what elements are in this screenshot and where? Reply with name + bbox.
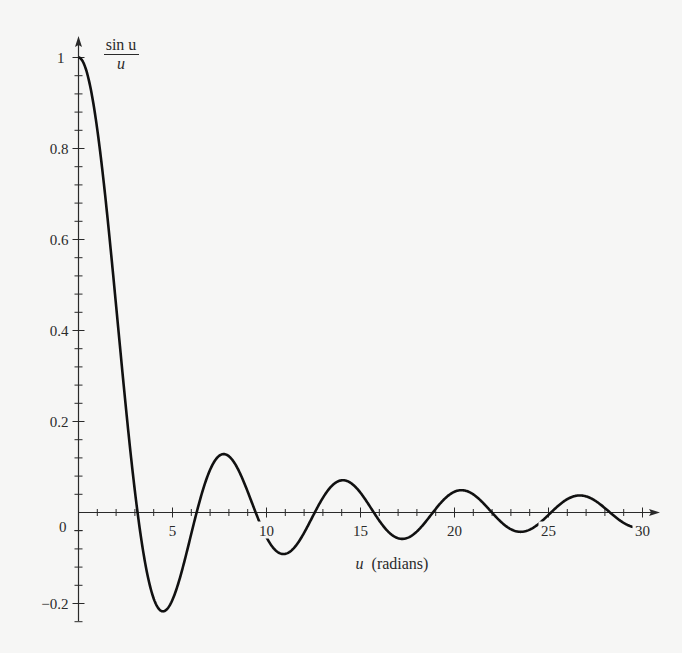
tick-labels: 51015202530−0.200.20.40.60.81 [41, 50, 652, 612]
chart-canvas: 51015202530−0.200.20.40.60.81 sin u u u … [0, 0, 682, 653]
y-tick-label: 0 [59, 519, 67, 535]
x-tick-label: 5 [169, 523, 177, 539]
y-tick-label: 0.6 [50, 232, 69, 248]
x-tick-label: 30 [635, 523, 650, 539]
y-tick-label: 0.4 [50, 323, 69, 339]
y-title-denominator: u [117, 55, 125, 72]
x-tick-label: 10 [259, 523, 274, 539]
x-tick-label: 25 [541, 523, 556, 539]
y-tick-label: 0.8 [50, 141, 69, 157]
y-tick-label: 1 [57, 50, 65, 66]
y-tick-label: −0.2 [41, 596, 68, 612]
y-axis-title: sin u u [104, 36, 139, 72]
y-tick-label: 0.2 [50, 414, 69, 430]
x-tick-label: 15 [353, 523, 368, 539]
y-title-numerator: sin u [106, 36, 137, 53]
sinc-chart: 51015202530−0.200.20.40.60.81 sin u u u … [0, 0, 682, 653]
x-tick-label: 20 [447, 523, 462, 539]
x-axis-title: u (radians) [356, 555, 429, 573]
